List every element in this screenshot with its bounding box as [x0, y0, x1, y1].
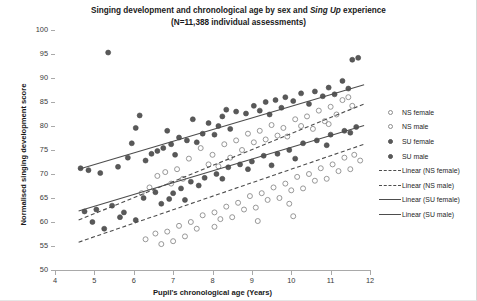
data-point [336, 169, 341, 174]
data-point [283, 181, 288, 186]
trendline-linear-su-male [79, 126, 364, 211]
data-point [184, 138, 189, 143]
data-point [202, 175, 207, 180]
data-point [165, 229, 170, 234]
data-point [312, 89, 317, 94]
data-point [137, 113, 142, 118]
legend-item-ns-female[interactable]: NS female [378, 105, 477, 120]
data-point [206, 121, 211, 126]
data-point [242, 207, 247, 212]
legend-item-linear-ns-male[interactable]: Linear (NS male) [378, 178, 477, 193]
y-axis-tick [51, 246, 55, 247]
data-point [253, 205, 258, 210]
data-point [228, 126, 233, 131]
scatter-layer [55, 30, 370, 270]
data-point [230, 215, 235, 220]
data-point [163, 170, 168, 175]
y-axis-tick [51, 126, 55, 127]
x-axis-tick-label: 6 [124, 276, 144, 285]
data-point [159, 242, 164, 247]
y-axis-tick-label: 80 [24, 122, 48, 129]
data-point [326, 85, 331, 90]
data-point [281, 125, 286, 130]
data-point [210, 152, 215, 157]
data-point [358, 158, 363, 163]
x-axis-tick-label: 11 [321, 276, 341, 285]
data-point [301, 186, 306, 191]
filled-circle-marker [388, 139, 393, 144]
open-circle-marker [378, 106, 402, 118]
data-point [305, 114, 310, 119]
x-axis-tick [134, 271, 135, 275]
data-point [143, 237, 148, 242]
x-axis-tick-label: 8 [203, 276, 223, 285]
data-point [306, 101, 311, 106]
dashed-line [379, 170, 401, 171]
data-point [293, 156, 298, 161]
x-axis-tick-label: 4 [45, 276, 65, 285]
data-point [220, 176, 225, 181]
data-point [324, 143, 329, 148]
legend-item-label: NS female [402, 108, 434, 117]
data-point [293, 117, 298, 122]
data-point [251, 103, 256, 108]
data-point [318, 166, 323, 171]
data-point [312, 178, 317, 183]
data-point [295, 174, 300, 179]
open-circle-marker [388, 110, 393, 115]
data-point [196, 183, 201, 188]
data-point [106, 50, 111, 55]
y-axis-title: Normalised singing development score [19, 75, 28, 235]
data-point [121, 210, 126, 215]
legend-item-label: SU male [402, 152, 428, 161]
data-point [236, 200, 241, 205]
y-axis-tick [51, 150, 55, 151]
data-point [350, 57, 355, 62]
y-axis-tick-label: 50 [24, 266, 48, 273]
solid-line [378, 208, 402, 220]
data-point [175, 167, 180, 172]
data-point [340, 78, 345, 83]
filled-circle-marker [378, 135, 402, 147]
legend-item-linear-ns-female[interactable]: Linear (NS female) [378, 163, 477, 178]
x-axis-tick [173, 271, 174, 275]
x-axis-tick-label: 5 [84, 276, 104, 285]
y-axis-tick-label: 65 [24, 194, 48, 201]
data-point [247, 194, 252, 199]
legend-item-linear-su-female[interactable]: Linear (SU female) [378, 193, 477, 208]
data-point [342, 155, 347, 160]
data-point [251, 140, 256, 145]
chart-title-block: Singing development and chronological ag… [0, 5, 477, 29]
y-axis-tick [51, 78, 55, 79]
data-point [283, 95, 288, 100]
data-point [190, 117, 195, 122]
legend-item-ns-male[interactable]: NS male [378, 120, 477, 135]
data-point [291, 99, 296, 104]
data-point [273, 98, 278, 103]
y-axis-tick-label: 75 [24, 146, 48, 153]
data-point [155, 173, 160, 178]
data-point [340, 98, 345, 103]
data-point [171, 239, 176, 244]
data-point [245, 131, 250, 136]
y-axis-tick [51, 198, 55, 199]
legend-item-label: NS male [402, 122, 428, 131]
legend-item-label: SU female [402, 137, 434, 146]
data-point [310, 126, 315, 131]
x-axis-tick [252, 271, 253, 275]
legend-item-su-female[interactable]: SU female [378, 134, 477, 149]
data-point [263, 137, 268, 142]
chart-title-post: experience [341, 6, 386, 15]
data-point [171, 191, 176, 196]
data-point [352, 152, 357, 157]
data-point [234, 109, 239, 114]
y-axis-tick-label: 60 [24, 218, 48, 225]
data-point [98, 171, 103, 176]
y-axis-tick [51, 174, 55, 175]
legend-item-linear-su-male[interactable]: Linear (SU male) [378, 207, 477, 222]
x-axis-tick [213, 271, 214, 275]
data-point [212, 132, 217, 137]
legend-item-su-male[interactable]: SU male [378, 149, 477, 164]
data-point [326, 122, 331, 127]
data-point [212, 210, 217, 215]
